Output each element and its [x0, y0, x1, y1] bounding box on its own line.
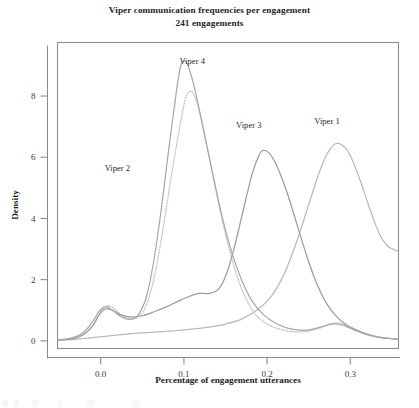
- page-edge-artifact: [2, 400, 212, 407]
- y-tick-label: 8: [31, 91, 36, 101]
- series-label-viper-1: Viper 1: [314, 116, 340, 126]
- x-axis-title: Percentage of engagement utterances: [155, 375, 301, 385]
- x-tick-label: 0.3: [345, 369, 357, 379]
- plot-frame: [58, 43, 399, 349]
- series-label-viper-3: Viper 3: [236, 120, 262, 130]
- y-tick-label: 4: [31, 214, 36, 224]
- series-label-viper-4: Viper 4: [179, 56, 205, 66]
- density-curve-viper-2: [58, 91, 399, 340]
- density-curve-viper-4: [58, 61, 399, 340]
- y-tick-label: 6: [31, 152, 36, 162]
- x-tick-label: 0.0: [95, 369, 107, 379]
- y-axis-title: Density: [10, 190, 20, 220]
- series-labels-group: Viper 1Viper 2Viper 3Viper 4: [105, 56, 340, 173]
- series-label-viper-2: Viper 2: [105, 163, 131, 173]
- density-curves-group: [58, 61, 399, 341]
- plot-canvas: 0.00.10.20.302468 Viper 1Viper 2Viper 3V…: [0, 0, 419, 408]
- density-plot-figure: Viper communication frequencies per enga…: [0, 0, 419, 408]
- y-tick-label: 2: [31, 275, 36, 285]
- y-tick-label: 0: [31, 336, 36, 346]
